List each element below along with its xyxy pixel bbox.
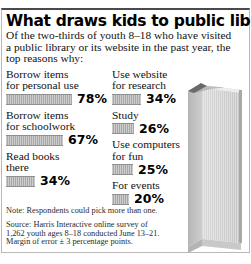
- stat-value: 67%: [68, 134, 98, 146]
- stat-value: 20%: [134, 193, 164, 205]
- stat-bar-row: 34%: [6, 176, 108, 187]
- stat-bar: [6, 135, 63, 146]
- page-title: What draws kids to public libraries: [6, 13, 245, 29]
- stat-label-line2: for schoolwork: [6, 121, 108, 133]
- footnotes: Note: Respondents could pick more than o…: [6, 207, 168, 247]
- stat-bar: [6, 94, 72, 105]
- stat-bar-row: 78%: [6, 94, 108, 105]
- stat-label: Use website for research: [112, 69, 190, 92]
- stat-bar-row: 26%: [112, 123, 190, 134]
- stat-label-line2: for personal use: [6, 80, 108, 92]
- stat-label: Read books there: [6, 151, 108, 174]
- stats-column-right: Use website for research 34% Study 26%: [112, 69, 190, 210]
- stat-value: 78%: [77, 93, 107, 105]
- stat-label: For events: [112, 180, 190, 192]
- stat-bar-row: 25%: [112, 164, 190, 175]
- stat-use-website-research: Use website for research 34%: [112, 69, 190, 105]
- infographic-card: What draws kids to public libraries Of t…: [0, 0, 251, 264]
- stat-bar: [112, 194, 129, 205]
- source-text: Source: Harris Interactive online survey…: [6, 221, 168, 247]
- stat-value: 34%: [146, 93, 176, 105]
- stats-column-left: Borrow items for personal use 78% Borrow…: [6, 69, 112, 192]
- stat-bar: [112, 94, 141, 105]
- stat-label: Borrow items for personal use: [6, 69, 108, 92]
- stat-for-events: For events 20%: [112, 180, 190, 205]
- stat-value: 26%: [139, 123, 169, 135]
- stat-bar: [112, 164, 133, 175]
- stat-value: 25%: [138, 164, 168, 176]
- stat-bar: [112, 123, 134, 134]
- standing-book-icon: [185, 71, 251, 257]
- deck-text: Of the two-thirds of youth 8–18 who have…: [6, 30, 234, 65]
- stat-label-line1: For events: [112, 180, 190, 192]
- stat-label: Study: [112, 110, 190, 122]
- card-content: What draws kids to public libraries Of t…: [0, 8, 251, 253]
- stat-bar-row: 20%: [112, 194, 190, 205]
- stat-label-line2: for research: [112, 80, 190, 92]
- stat-use-computers-fun: Use computers for fun 25%: [112, 139, 190, 175]
- stat-borrow-personal: Borrow items for personal use 78%: [6, 69, 108, 105]
- stat-value: 34%: [40, 175, 70, 187]
- stat-bar-row: 34%: [112, 94, 190, 105]
- stat-label-line1: Study: [112, 110, 190, 122]
- note-text: Note: Respondents could pick more than o…: [6, 207, 168, 216]
- stat-bar-row: 67%: [6, 135, 108, 146]
- stat-label-line2: for fun: [112, 151, 190, 163]
- stat-label: Borrow items for schoolwork: [6, 110, 108, 133]
- stat-read-books-there: Read books there 34%: [6, 151, 108, 187]
- stat-borrow-schoolwork: Borrow items for schoolwork 67%: [6, 110, 108, 146]
- stat-label-line2: there: [6, 162, 108, 174]
- stat-bar: [6, 176, 35, 187]
- stat-label: Use computers for fun: [112, 139, 190, 162]
- stats-columns: Borrow items for personal use 78% Borrow…: [6, 69, 245, 210]
- stat-study: Study 26%: [112, 110, 190, 135]
